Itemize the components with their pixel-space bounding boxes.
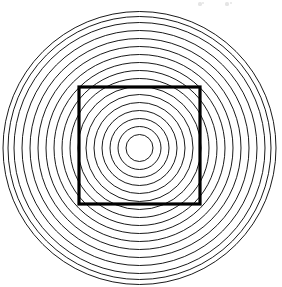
artifact-mark-3: [225, 2, 228, 5]
figure-canvas: [0, 0, 282, 287]
concentric-circles-diagram: [0, 0, 282, 287]
